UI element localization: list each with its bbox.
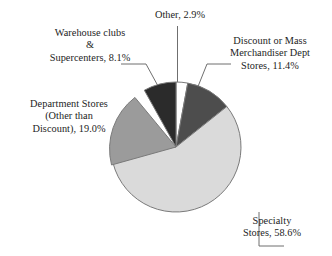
slice-label-department-line1: Department Stores bbox=[6, 98, 132, 110]
slice-label-warehouse-line3: Supercenters, 8.1% bbox=[22, 52, 158, 64]
slice-label-warehouse-line2: & bbox=[22, 39, 158, 51]
slice-label-specialty-stores: Specialty Stores, 58.6% bbox=[214, 215, 330, 240]
slice-label-discount-or-mass: Discount or Mass Merchandiser Dept Store… bbox=[208, 35, 332, 72]
slice-label-discount-line2: Merchandiser Dept bbox=[208, 47, 332, 59]
slice-label-warehouse-line1: Warehouse clubs bbox=[22, 27, 158, 39]
slice-label-specialty-line2: Stores, 58.6% bbox=[214, 227, 330, 239]
slice-label-department-stores: Department Stores (Other than Discount),… bbox=[6, 98, 132, 135]
slice-label-discount-line3: Stores, 11.4% bbox=[208, 60, 332, 72]
pie-chart-figure: Other, 2.9% Warehouse clubs & Supercente… bbox=[0, 0, 332, 256]
slice-label-department-line3: Discount), 19.0% bbox=[6, 123, 132, 135]
slice-label-other: Other, 2.9% bbox=[128, 9, 232, 21]
slice-label-specialty-line1: Specialty bbox=[214, 215, 330, 227]
slice-label-warehouse-clubs: Warehouse clubs & Supercenters, 8.1% bbox=[22, 27, 158, 64]
leader-line-warehouse bbox=[121, 64, 158, 86]
slice-label-department-line2: (Other than bbox=[6, 110, 132, 122]
slice-label-discount-line1: Discount or Mass bbox=[208, 35, 332, 47]
slice-label-other-line1: Other, 2.9% bbox=[128, 9, 232, 21]
